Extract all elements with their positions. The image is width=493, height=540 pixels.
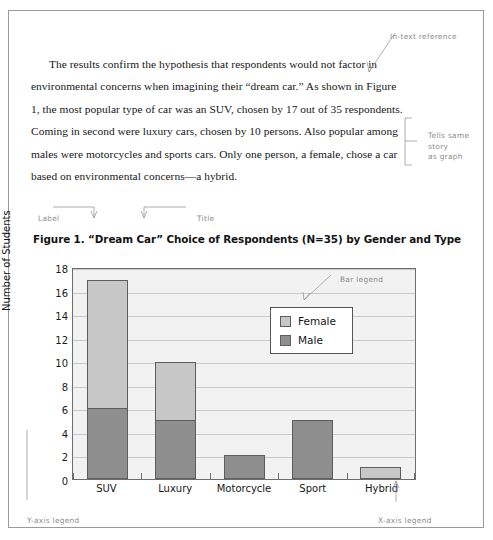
- bar-segment-female: [360, 467, 401, 479]
- x-axis-category-label: Sport: [278, 483, 347, 494]
- y-axis-tick-label: 4: [62, 428, 68, 439]
- x-axis-category-label: SUV: [72, 483, 141, 494]
- bar-slot: [210, 269, 278, 479]
- y-axis-title: Number of Students: [1, 210, 12, 311]
- y-axis-tick-label: 10: [55, 358, 68, 369]
- stacked-bar: [224, 455, 265, 479]
- bar-segment-male: [87, 408, 128, 479]
- bar-slot: [347, 269, 415, 479]
- y-axis-tick-label: 8: [62, 381, 68, 392]
- annotation-y-axis-legend: Y-axis legend: [27, 516, 80, 527]
- legend-swatch-male: [280, 335, 291, 346]
- chart-legend: Female Male: [270, 307, 353, 354]
- legend-label-male: Male: [298, 334, 323, 346]
- y-axis-tick-label: 2: [62, 452, 68, 463]
- stacked-bar: [360, 467, 401, 479]
- bar-segment-male: [292, 420, 333, 479]
- annotation-x-axis-legend: X-axis legend: [378, 516, 432, 527]
- x-axis-tick: [210, 473, 211, 479]
- bar-chart: 024681012141618: [72, 268, 416, 480]
- annotation-bar-legend: Bar legend: [340, 275, 383, 286]
- y-axis-tick-label: 16: [55, 287, 68, 298]
- legend-label-female: Female: [298, 315, 336, 327]
- y-axis-tick-label: 0: [62, 476, 68, 487]
- legend-item-female: Female: [280, 315, 336, 327]
- plot-area: 024681012141618: [72, 268, 416, 480]
- y-axis-tick-label: 12: [55, 334, 68, 345]
- annotation-in-text-reference: In-text reference: [390, 32, 457, 43]
- bar-slot: [73, 269, 141, 479]
- x-axis-category-label: Luxury: [141, 483, 210, 494]
- x-axis-tick-labels: SUVLuxuryMotorcycleSportHybrid: [72, 483, 416, 494]
- x-axis-tick: [347, 473, 348, 479]
- bar-slot: [278, 269, 346, 479]
- stacked-bar: [292, 420, 333, 479]
- x-axis-tick: [414, 473, 415, 479]
- bar-segment-female: [87, 280, 128, 410]
- bar-slot: [141, 269, 209, 479]
- stacked-bar: [87, 280, 128, 479]
- y-axis-tick-label: 18: [55, 264, 68, 275]
- y-axis-tick-label: 14: [55, 311, 68, 322]
- body-paragraph: The results confirm the hypothesis that …: [31, 53, 403, 187]
- x-axis-tick: [141, 473, 142, 479]
- bar-segment-female: [155, 362, 196, 421]
- x-axis-tick: [73, 473, 74, 479]
- legend-item-male: Male: [280, 334, 336, 346]
- figure-caption: Figure 1. “Dream Car” Choice of Responde…: [9, 233, 485, 245]
- legend-swatch-female: [280, 316, 291, 327]
- x-axis-tick: [278, 473, 279, 479]
- bar-group: [73, 269, 415, 479]
- y-axis-tick-label: 6: [62, 405, 68, 416]
- bar-segment-male: [155, 420, 196, 479]
- annotation-title: Title: [197, 214, 214, 225]
- x-axis-category-label: Motorcycle: [210, 483, 279, 494]
- bar-segment-male: [224, 455, 265, 479]
- document-page: The results confirm the hypothesis that …: [8, 10, 484, 528]
- annotation-label: Label: [38, 214, 59, 225]
- x-axis-category-label: Hybrid: [347, 483, 416, 494]
- annotation-tells-same-story: Tells same story as graph: [428, 131, 469, 163]
- stacked-bar: [155, 362, 196, 479]
